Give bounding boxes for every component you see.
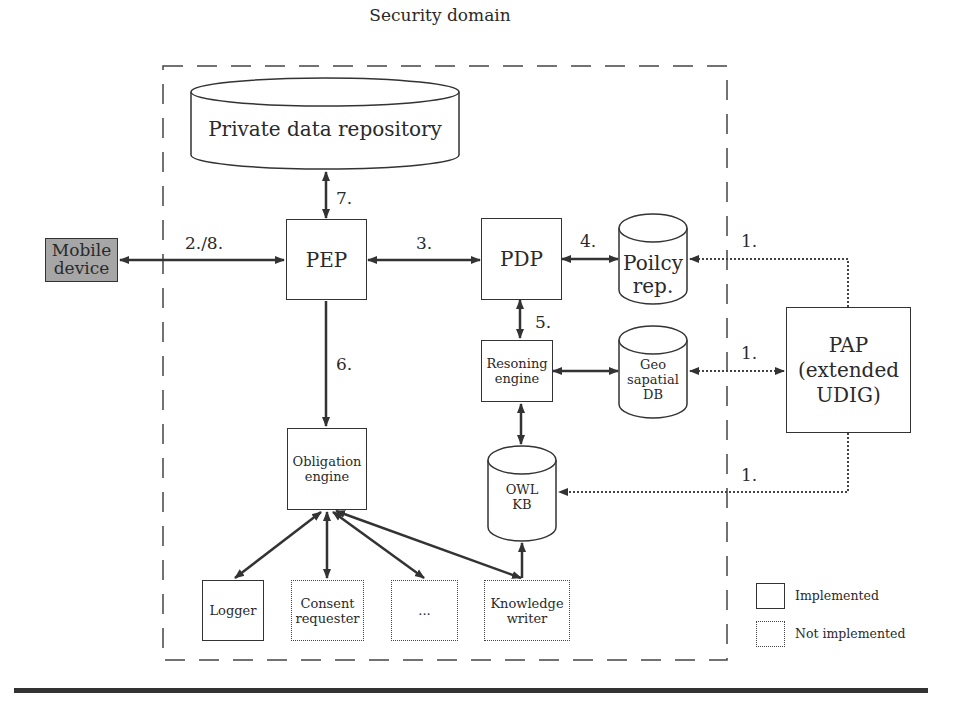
- knowledge-line2: writer: [507, 611, 548, 626]
- edge-label-4: 4.: [576, 232, 600, 252]
- geo-line1: Geo: [619, 358, 687, 373]
- policy-rep-line2: rep.: [619, 275, 687, 298]
- security-domain-label: Security domain: [340, 6, 540, 26]
- geo-line2: sapatial: [619, 373, 687, 388]
- legend-implemented-swatch: [756, 583, 785, 609]
- edge-label-5: 5.: [531, 313, 555, 333]
- geo-spatial-db-label[interactable]: Geo sapatial DB: [619, 358, 687, 403]
- pdp-label: PDP: [500, 247, 543, 271]
- pap-line3: UDIG): [816, 383, 881, 408]
- consent-requester-node[interactable]: Consent requester: [291, 580, 364, 641]
- pep-node[interactable]: PEP: [286, 219, 367, 300]
- obligation-engine-node[interactable]: Obligation engine: [287, 428, 367, 510]
- pap-node[interactable]: PAP (extended UDIG): [786, 307, 911, 433]
- reasoning-engine-node[interactable]: Resoning engine: [481, 340, 553, 402]
- arrow-obligation-logger: [235, 512, 321, 578]
- ellipsis-label: ...: [418, 603, 430, 618]
- legend-implemented-label: Implemented: [795, 589, 879, 603]
- owl-kb-label[interactable]: OWL KB: [488, 483, 556, 513]
- dotted-arrow-pap-policy: [690, 259, 848, 307]
- edge-label-1-owl: 1.: [737, 466, 761, 486]
- ellipsis-node[interactable]: ...: [391, 580, 458, 641]
- edge-label-3: 3.: [412, 234, 436, 254]
- knowledge-line1: Knowledge: [490, 596, 563, 611]
- legend-not-implemented-label: Not implemented: [795, 627, 905, 641]
- consent-line2: requester: [295, 611, 359, 626]
- logger-label: Logger: [209, 603, 256, 618]
- dotted-arrow-pap-owl: [559, 433, 848, 492]
- arrow-obligation-ellipsis: [333, 512, 424, 578]
- pep-label: PEP: [306, 248, 348, 272]
- consent-line1: Consent: [300, 596, 354, 611]
- policy-rep-line1: Poilcy: [619, 252, 687, 275]
- private-data-repository-label: Private data repository: [191, 118, 459, 141]
- legend-not-implemented-swatch: [756, 621, 785, 647]
- pap-line1: PAP: [829, 333, 869, 358]
- pdp-node[interactable]: PDP: [481, 218, 562, 300]
- policy-rep-label[interactable]: Poilcy rep.: [619, 252, 687, 298]
- owl-line1: OWL: [488, 483, 556, 498]
- mobile-device-label: Mobile device: [52, 242, 112, 278]
- geo-line3: DB: [619, 388, 687, 403]
- bottom-rule: [14, 688, 928, 693]
- pap-line2: (extended: [798, 358, 899, 383]
- obligation-line2: engine: [305, 469, 350, 484]
- edge-label-1-geo: 1.: [737, 344, 761, 364]
- edge-label-1-policy: 1.: [737, 232, 761, 252]
- edge-label-7: 7.: [332, 189, 356, 209]
- edge-label-2-8: 2./8.: [184, 234, 224, 254]
- obligation-line1: Obligation: [293, 454, 362, 469]
- reasoning-line2: engine: [495, 371, 540, 386]
- logger-node[interactable]: Logger: [202, 580, 264, 641]
- mobile-device-node[interactable]: Mobile device: [45, 238, 118, 282]
- reasoning-line1: Resoning: [486, 356, 547, 371]
- knowledge-writer-node[interactable]: Knowledge writer: [484, 580, 570, 641]
- owl-line2: KB: [488, 498, 556, 513]
- edge-label-6: 6.: [332, 355, 356, 375]
